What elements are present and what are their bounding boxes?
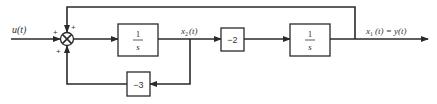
block-diagram: u(t) + + + 1 s x2(t) −2 1 s x1(t) = y(t) xyxy=(0,0,437,104)
input-label: u(t) xyxy=(12,24,27,36)
gain-2-label: −2 xyxy=(227,35,237,45)
sign-top: + xyxy=(71,23,76,32)
integrator-block-1: 1 s xyxy=(118,24,158,56)
x2-label: x2(t) xyxy=(180,26,198,37)
integrator-block-2: 1 s xyxy=(290,24,330,56)
output-label: x1(t) = y(t) xyxy=(365,26,407,37)
sign-left: + xyxy=(53,28,58,37)
gain-block-minus-2: −2 xyxy=(221,28,244,51)
gain-block-minus-3: −3 xyxy=(127,72,150,96)
integrator-1-numerator: 1 xyxy=(136,29,141,39)
integrator-2-denominator: s xyxy=(308,42,312,52)
integrator-1-denominator: s xyxy=(136,42,140,52)
integrator-2-numerator: 1 xyxy=(308,29,313,39)
gain-3-label: −3 xyxy=(133,80,143,90)
sign-bottom: + xyxy=(56,47,61,56)
